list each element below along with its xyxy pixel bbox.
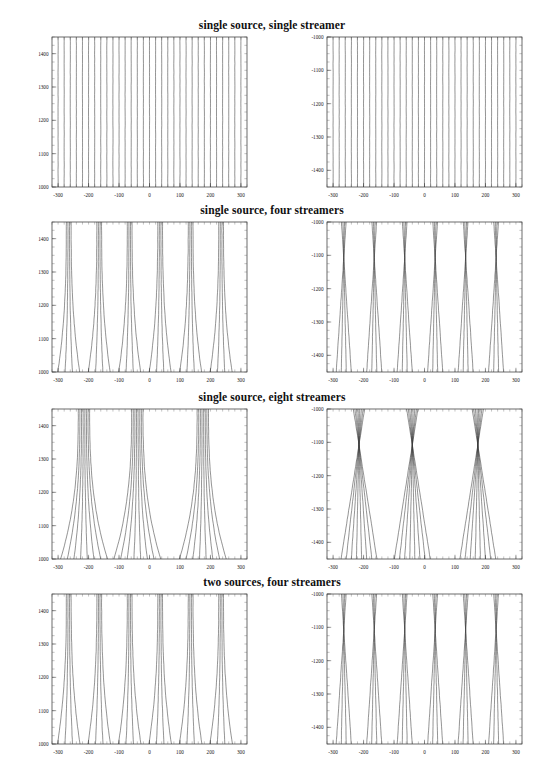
y-tick-label: 1000	[38, 741, 49, 747]
x-tick-label: -200	[359, 749, 369, 755]
x-tick-label: 300	[512, 749, 520, 755]
raypath	[474, 409, 491, 559]
raypath-group	[333, 37, 516, 187]
x-tick-label: 100	[176, 564, 184, 570]
plot-frame	[327, 594, 522, 744]
y-tick-label: 1400	[38, 236, 49, 242]
raypath	[102, 222, 111, 372]
raypath	[119, 222, 128, 372]
x-tick-label: 0	[423, 749, 426, 755]
raypath	[193, 222, 202, 372]
y-tick-label: -1300	[311, 134, 324, 140]
x-tick-label: 200	[207, 192, 215, 198]
raypath	[85, 409, 88, 559]
raypath-group	[61, 409, 227, 559]
y-tick-label: -1000	[311, 34, 324, 40]
y-tick-label: 1200	[38, 674, 49, 680]
raypath-group	[341, 409, 496, 559]
y-tick-label: -1300	[311, 319, 324, 325]
raypath	[162, 594, 171, 744]
raypath	[346, 409, 363, 559]
x-tick-label: -300	[53, 377, 63, 383]
panel-title-2: single source, four streamers	[0, 203, 544, 218]
raypath	[208, 409, 226, 559]
raypath	[71, 222, 80, 372]
x-tick-label: -300	[328, 749, 338, 755]
y-tick-label: -1200	[311, 473, 324, 479]
y-tick-label: -1000	[311, 406, 324, 412]
raypath	[61, 409, 79, 559]
y-tick-label: -1100	[312, 624, 324, 630]
x-tick-label: 100	[451, 564, 459, 570]
x-tick-label: -100	[389, 192, 399, 198]
raypath	[88, 594, 97, 744]
y-tick-label: 1000	[38, 556, 49, 562]
plot-frame	[327, 222, 522, 372]
y-tick-label: 1200	[38, 117, 49, 123]
y-tick-label: 1000	[38, 369, 49, 375]
y-tick-label: 1300	[38, 641, 49, 647]
raypath	[399, 409, 416, 559]
x-tick-label: 100	[176, 192, 184, 198]
y-tick-label: -1200	[311, 658, 324, 664]
raypath	[355, 409, 372, 559]
raypath	[204, 409, 206, 559]
x-tick-label: 200	[482, 564, 490, 570]
x-tick-label: -200	[359, 564, 369, 570]
x-tick-label: -100	[114, 749, 124, 755]
raypath-group	[58, 222, 232, 372]
raypath	[180, 222, 189, 372]
y-tick-label: 1300	[38, 84, 49, 90]
raypath	[102, 594, 111, 744]
figure-root: single source, single streamer -300-200-…	[0, 0, 544, 775]
raypath	[223, 222, 232, 372]
y-tick-label: -1200	[311, 286, 324, 292]
raypath	[134, 409, 137, 559]
raypath	[58, 222, 67, 372]
x-tick-label: 0	[148, 749, 151, 755]
y-tick-label: -1200	[311, 101, 324, 107]
x-tick-label: 100	[451, 192, 459, 198]
raypath	[143, 409, 161, 559]
raypath	[163, 222, 172, 372]
plot-left: -300-200-1000100200300100011001200130014…	[0, 590, 255, 764]
x-tick-label: 200	[482, 377, 490, 383]
x-tick-label: -200	[359, 192, 369, 198]
raypath	[114, 409, 132, 559]
plot-right: -300-200-1000100200300-1000-1100-1200-13…	[275, 218, 530, 392]
x-tick-label: 200	[207, 749, 215, 755]
panel-row-2: single source, four streamers -300-200-1…	[0, 203, 544, 394]
x-tick-label: 100	[176, 749, 184, 755]
x-tick-label: -100	[114, 377, 124, 383]
plot-pair-1: -300-200-1000100200300100011001200130014…	[0, 33, 544, 209]
raypath	[65, 594, 68, 744]
x-tick-label: 200	[207, 377, 215, 383]
raypath-group	[336, 594, 503, 744]
y-tick-label: 1400	[38, 608, 49, 614]
x-tick-label: -100	[114, 192, 124, 198]
x-tick-label: -300	[328, 377, 338, 383]
panel-title-1: single source, single streamer	[0, 18, 544, 33]
panel-row-3: single source, eight streamers -300-200-…	[0, 390, 544, 581]
y-tick-label: 1100	[38, 523, 49, 529]
x-tick-label: -100	[389, 564, 399, 570]
x-tick-label: -300	[328, 192, 338, 198]
raypath	[223, 594, 232, 744]
y-tick-label: 1400	[38, 51, 49, 57]
x-tick-label: 0	[423, 192, 426, 198]
raypath	[90, 409, 108, 559]
plot-left: -300-200-1000100200300100011001200130014…	[0, 405, 255, 579]
x-tick-label: 200	[482, 749, 490, 755]
x-tick-label: 200	[482, 192, 490, 198]
y-tick-label: 1100	[38, 336, 49, 342]
x-tick-label: 100	[176, 377, 184, 383]
x-tick-label: -200	[84, 564, 94, 570]
y-tick-label: -1400	[311, 352, 324, 358]
x-tick-label: -100	[114, 564, 124, 570]
raypath	[465, 409, 482, 559]
x-tick-label: 0	[148, 564, 151, 570]
plot-frame	[52, 222, 247, 372]
y-tick-label: 1200	[38, 489, 49, 495]
raypath-group	[336, 222, 503, 372]
panel-row-4: two sources, four streamers -300-200-100…	[0, 575, 544, 766]
